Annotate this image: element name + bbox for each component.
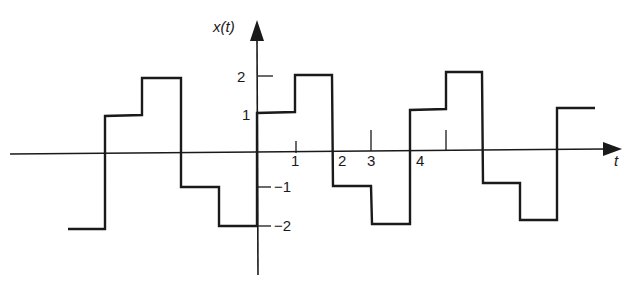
y-axis-ticks [258,76,273,226]
tick-label-y-2: 2 [237,68,245,85]
t-axis [10,142,622,156]
tick-label-y-1: 1 [242,106,250,123]
tick-label-y-neg1: −1 [274,178,291,195]
tick-label-t-4: 4 [416,152,424,169]
t-axis-label: t [614,152,619,169]
tick-label-y-neg2: −2 [274,217,291,234]
y-axis-label: x(t) [212,18,235,35]
step-waveform-diagram: x(t) t 1 2 3 4 2 1 −1 −2 [0,0,633,285]
tick-label-t-3: 3 [367,152,375,169]
t-axis-ticks [296,130,446,153]
t-axis-arrow-icon [603,142,622,156]
tick-label-t-1: 1 [291,152,299,169]
tick-label-t-2: 2 [338,152,346,169]
y-axis-arrow-icon [250,20,264,41]
